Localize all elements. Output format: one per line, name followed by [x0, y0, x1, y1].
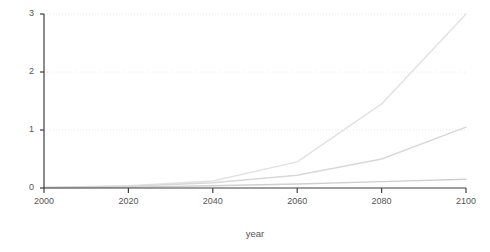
y-tick-label-1: 1: [8, 124, 34, 134]
x-tick-label-2020: 2020: [103, 196, 153, 206]
x-tick-label-2000: 2000: [19, 196, 69, 206]
chart-figure: $ trillion / year year 0123 200020202040…: [0, 0, 490, 252]
x-tick-marks: [44, 188, 466, 193]
y-tick-label-3: 3: [8, 8, 34, 18]
data-series-group: [44, 14, 466, 188]
plot-canvas: [0, 0, 490, 252]
gridlines: [44, 14, 466, 130]
x-axis-title: year: [44, 228, 466, 239]
x-tick-label-2100: 2100: [441, 196, 490, 206]
y-axis-title: $ trillion / year: [2, 0, 16, 42]
x-tick-label-2080: 2080: [357, 196, 407, 206]
axis-lines: [44, 14, 466, 188]
y-tick-label-2: 2: [8, 66, 34, 76]
y-tick-label-0: 0: [8, 182, 34, 192]
series-line-high-growth: [44, 14, 466, 187]
x-tick-label-2040: 2040: [188, 196, 238, 206]
x-tick-label-2060: 2060: [272, 196, 322, 206]
series-line-mid-growth: [44, 127, 466, 187]
